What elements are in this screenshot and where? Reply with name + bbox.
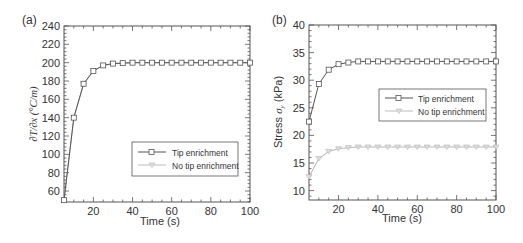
data-point: [306, 175, 312, 180]
y-tick-label: 200: [42, 57, 60, 69]
data-point: [130, 60, 135, 65]
x-tick-label: 20: [332, 203, 344, 215]
data-point: [494, 59, 499, 64]
data-point: [62, 198, 67, 203]
x-axis-label-b: Time (s): [382, 212, 422, 224]
data-point: [366, 59, 371, 64]
data-point: [326, 67, 331, 72]
y-tick-label: 220: [42, 38, 60, 50]
data-point: [140, 60, 145, 65]
data-point: [248, 60, 253, 65]
y-tick-label: 120: [42, 130, 60, 142]
data-point: [434, 59, 439, 64]
figure: (a) 6080100120140160180200220240 2040608…: [0, 0, 523, 243]
y-tick-label: 20: [293, 129, 305, 141]
data-point: [238, 60, 243, 65]
series-group-a: [61, 60, 253, 203]
series-tip-enrichment-a: [62, 60, 253, 203]
y-tick-label: 15: [293, 157, 305, 169]
data-point: [405, 59, 410, 64]
chart-panel-b: (b) 10152025303540 20406080100 Time (s) …: [272, 13, 505, 224]
legend-label-tip-enrichment-a: Tip enrichment: [172, 148, 229, 158]
data-point: [484, 59, 489, 64]
y-tick-label: 60: [48, 185, 60, 197]
y-tick-label: 40: [293, 19, 305, 31]
series-no-tip-enrichment-b: [306, 145, 499, 179]
legend-label-no-tip-enrichment-b: No tip enrichment: [418, 107, 485, 117]
data-point: [346, 60, 351, 65]
y-tick-label: 25: [293, 102, 305, 114]
y-tick-label: 30: [293, 74, 305, 86]
data-point: [395, 59, 400, 64]
y-tick-label: 160: [42, 93, 60, 105]
data-point: [110, 61, 115, 66]
x-tick-label: 80: [451, 203, 463, 215]
legend-label-no-tip-enrichment-a: No tip enrichment: [172, 161, 239, 171]
y-axis-label-b: Stress σy (kPa): [272, 76, 286, 148]
data-point: [208, 60, 213, 65]
y-tick-label: 140: [42, 112, 60, 124]
y-tick-label: 100: [42, 148, 60, 160]
data-point: [120, 61, 125, 66]
data-point: [307, 119, 312, 124]
data-point: [101, 63, 106, 68]
data-point: [169, 60, 174, 65]
series-no-tip-enrichment-a: [61, 61, 253, 203]
data-point: [189, 60, 194, 65]
data-point: [316, 157, 322, 162]
x-tick-label: 100: [241, 205, 259, 217]
data-point: [316, 82, 321, 87]
panel-label-a: (a): [22, 13, 37, 27]
data-point: [375, 59, 380, 64]
x-tick-label: 20: [87, 205, 99, 217]
y-tick-label: 240: [42, 20, 60, 32]
y-tick-label: 10: [293, 185, 305, 197]
data-point: [454, 59, 459, 64]
y-tick-label: 80: [48, 167, 60, 179]
data-point: [444, 59, 449, 64]
data-point: [159, 60, 164, 65]
data-point: [336, 62, 341, 67]
panel-label-b: (b): [272, 13, 287, 27]
data-point: [81, 81, 86, 86]
x-tick-label: 80: [205, 205, 217, 217]
y-axis-label-a: ∂T/∂x (°C/m): [28, 86, 40, 142]
y-tick-label: 35: [293, 47, 305, 59]
data-point: [71, 115, 76, 120]
data-point: [91, 68, 96, 73]
x-tick-label: 100: [487, 203, 505, 215]
data-point: [385, 59, 390, 64]
data-point: [356, 59, 361, 64]
data-point: [425, 59, 430, 64]
data-point: [179, 60, 184, 65]
legend-b: Tip enrichment No tip enrichment: [379, 89, 486, 121]
data-point: [464, 59, 469, 64]
data-point: [228, 60, 233, 65]
data-point: [199, 60, 204, 65]
x-axis-label-a: Time (s): [140, 215, 180, 227]
y-tick-label: 180: [42, 75, 60, 87]
data-point: [150, 60, 155, 65]
data-point: [415, 59, 420, 64]
chart-panel-a: (a) 6080100120140160180200220240 2040608…: [22, 13, 259, 227]
x-axis-ticks-a: 20406080100: [74, 26, 259, 217]
legend-label-tip-enrichment-b: Tip enrichment: [418, 94, 475, 104]
data-point: [218, 60, 223, 65]
legend-a: Tip enrichment No tip enrichment: [132, 142, 239, 176]
data-point: [474, 59, 479, 64]
x-tick-label: 40: [126, 205, 138, 217]
